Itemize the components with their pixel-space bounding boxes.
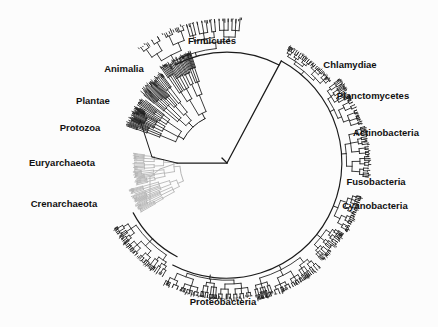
tree-branch bbox=[352, 171, 360, 172]
tree-branch bbox=[306, 56, 307, 57]
tree-branch bbox=[179, 62, 180, 63]
tree-branch bbox=[130, 251, 131, 252]
tree-branch bbox=[339, 241, 340, 242]
tree-branch bbox=[290, 46, 291, 47]
clade-label-cyanobacteria: Cyanobacteria bbox=[342, 200, 408, 211]
tree-branch bbox=[258, 297, 259, 299]
tree-branch bbox=[177, 288, 178, 289]
clade-label-proteobacteria: Proteobacteria bbox=[190, 296, 257, 307]
tree-branch bbox=[144, 158, 154, 159]
tree-branch bbox=[135, 171, 141, 172]
tree-branch bbox=[183, 290, 184, 292]
tree-branch bbox=[133, 252, 134, 253]
clade-label-protozoa: Protozoa bbox=[60, 122, 101, 133]
tree-branch bbox=[190, 292, 191, 294]
tree-branch bbox=[131, 188, 133, 189]
tree-branch bbox=[163, 65, 164, 66]
tree-branch bbox=[142, 261, 143, 262]
tree-branch bbox=[241, 288, 242, 293]
tree-branch bbox=[190, 51, 191, 53]
tree-branch bbox=[137, 180, 140, 181]
tree-branch bbox=[169, 286, 170, 287]
tree-branch bbox=[329, 81, 330, 82]
clade-label-firmicutes: Firmicutes bbox=[188, 35, 236, 46]
tree-branch bbox=[345, 88, 346, 89]
tree-branch bbox=[185, 55, 186, 56]
tree-branch bbox=[336, 243, 337, 244]
clade-label-euryarchaeota: Euryarchaeota bbox=[29, 157, 96, 168]
tree-branch bbox=[154, 271, 155, 272]
tree-branch bbox=[302, 54, 303, 55]
tree-branch bbox=[172, 286, 173, 287]
tree-canvas: FirmicutesChlamydiaePlanctomycetesActino… bbox=[0, 0, 438, 327]
phylogenetic-tree-figure: FirmicutesChlamydiaePlanctomycetesActino… bbox=[0, 0, 438, 327]
tree-branch bbox=[241, 283, 242, 288]
tree-branch bbox=[123, 236, 124, 237]
tree-branch bbox=[170, 64, 171, 65]
tree-branch bbox=[311, 274, 312, 275]
tree-branch bbox=[121, 233, 122, 234]
clade-label-plantae: Plantae bbox=[76, 95, 110, 106]
tree-branch bbox=[135, 171, 141, 172]
tree-branch bbox=[129, 190, 131, 191]
tree-branch bbox=[181, 55, 182, 56]
tree-branch bbox=[358, 143, 362, 144]
tree-branch bbox=[141, 211, 142, 212]
tree-branch bbox=[351, 102, 352, 103]
tree-arc bbox=[247, 292, 251, 293]
tree-branch bbox=[193, 293, 194, 295]
tree-branch bbox=[148, 265, 149, 266]
tree-branch bbox=[322, 71, 323, 72]
tree-branch bbox=[188, 52, 189, 54]
tree-branch bbox=[158, 77, 159, 78]
tree-branch bbox=[210, 279, 211, 283]
tree-branch bbox=[140, 260, 141, 261]
tree-branch bbox=[141, 100, 142, 101]
tree-branch bbox=[139, 104, 140, 105]
tree-branch bbox=[185, 293, 186, 295]
tree-branch bbox=[325, 74, 326, 75]
clade-label-chlamydiae: Chlamydiae bbox=[323, 59, 376, 70]
clade-label-fusobacteria: Fusobacteria bbox=[346, 176, 406, 187]
clade-label-crenarchaeota: Crenarchaeota bbox=[31, 198, 98, 209]
tree-branch bbox=[315, 272, 316, 273]
tree-branch bbox=[162, 34, 163, 35]
tree-branch bbox=[144, 44, 145, 45]
clade-label-animalia: Animalia bbox=[104, 63, 144, 74]
tree-branch bbox=[180, 25, 181, 27]
tree-branch bbox=[308, 277, 309, 278]
tree-branch bbox=[364, 139, 367, 140]
tree-branch bbox=[180, 57, 181, 58]
tree-branch bbox=[135, 158, 144, 159]
clade-label-planctomycetes: Planctomycetes bbox=[337, 90, 409, 101]
tree-branch bbox=[341, 81, 342, 82]
tree-branch bbox=[197, 22, 198, 24]
clade-label-actinobacteria: Actinobacteria bbox=[353, 127, 420, 138]
tree-branch bbox=[210, 275, 211, 279]
